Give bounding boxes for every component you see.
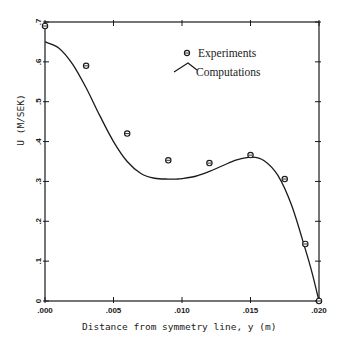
y-tick-label: .2 xyxy=(34,217,43,224)
experiment-point-marker-icon xyxy=(207,160,212,165)
y-tick-label: .4 xyxy=(34,138,43,145)
legend-computations-label: Computations xyxy=(196,66,261,79)
x-tick-label: .020 xyxy=(311,306,327,315)
experiment-points xyxy=(42,23,321,303)
x-axis-label: Distance from symmetry line, y (m) xyxy=(82,321,276,332)
x-tick-label: .010 xyxy=(174,306,190,315)
y-axis-label: U (M/SEK) xyxy=(15,94,26,145)
x-tick-label: .005 xyxy=(106,306,122,315)
experiment-point-marker-icon xyxy=(166,158,171,163)
y-tick-label: .7 xyxy=(34,18,43,25)
axis-ticks xyxy=(43,20,321,303)
legend-experiments-label: Experiments xyxy=(198,47,257,60)
experiment-point-marker-icon xyxy=(125,131,130,136)
experiment-point-marker-icon xyxy=(42,23,47,28)
y-tick-label: .3 xyxy=(34,178,43,185)
x-tick-labels: .000.005.010.015.020 xyxy=(37,306,327,315)
y-tick-label: .5 xyxy=(34,98,43,105)
experiment-point-marker-icon xyxy=(282,176,287,181)
legend: Experiments Computations xyxy=(174,47,261,79)
y-tick-labels: 0.1.2.3.4.5.6.7 xyxy=(34,18,43,303)
y-tick-label: .1 xyxy=(34,257,43,264)
experiment-point-marker-icon xyxy=(83,63,88,68)
experiment-point-marker-icon xyxy=(303,241,308,246)
x-tick-label: .015 xyxy=(243,306,259,315)
legend-experiments-marker-icon xyxy=(184,50,189,55)
computations-curve xyxy=(45,42,319,301)
experiment-point-marker-icon xyxy=(248,152,253,157)
experiment-point-marker-icon xyxy=(316,298,321,303)
y-tick-label: 0 xyxy=(34,298,43,303)
x-tick-label: .000 xyxy=(37,306,53,315)
legend-computations-line-icon xyxy=(174,63,197,72)
y-tick-label: .6 xyxy=(34,58,43,65)
chart: 0.1.2.3.4.5.6.7 .000.005.010.015.020 Exp… xyxy=(0,0,342,346)
